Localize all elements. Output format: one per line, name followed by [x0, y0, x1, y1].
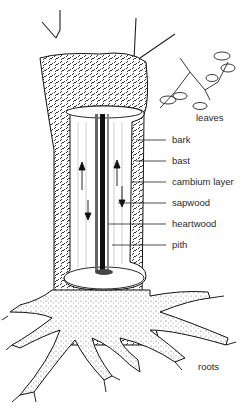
- label-bark: bark: [172, 135, 190, 145]
- label-heartwood: heartwood: [172, 219, 216, 229]
- leaves-illustration: [160, 52, 235, 110]
- label-pith: pith: [172, 240, 187, 250]
- label-bast: bast: [172, 156, 190, 166]
- tree-cross-section-illustration: [0, 0, 246, 417]
- label-cambium-layer: cambium layer: [172, 177, 234, 187]
- upper-branches: [42, 10, 175, 60]
- label-sapwood: sapwood: [172, 198, 210, 208]
- label-roots: roots: [198, 362, 219, 372]
- label-leaves: leaves: [196, 113, 223, 123]
